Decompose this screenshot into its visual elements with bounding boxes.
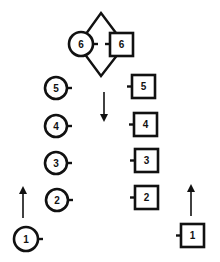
down-arrow-center-icon: [100, 92, 108, 122]
circle-node-4: 4: [45, 115, 72, 137]
circle-node-1: 1: [14, 227, 43, 251]
circle-label: 3: [53, 158, 59, 169]
circle-nodes: 54321: [14, 77, 73, 251]
up-arrow-left-icon: [19, 186, 27, 218]
pairing-diagram: 6 6 54321 54321: [0, 0, 220, 262]
arrow-head: [100, 114, 108, 122]
square-node-4: 4: [129, 113, 157, 136]
square-nodes: 54321: [127, 75, 204, 247]
square-label: 1: [190, 230, 196, 241]
circle-label: 1: [23, 234, 29, 245]
up-arrow-right-icon: [187, 184, 195, 216]
top-square-label: 6: [119, 39, 125, 50]
circle-label: 2: [54, 195, 60, 206]
circle-node-2: 2: [46, 189, 73, 211]
circle-label: 4: [53, 121, 59, 132]
square-label: 5: [141, 81, 147, 92]
top-circle-label: 6: [78, 39, 84, 50]
arrow-head: [19, 186, 27, 194]
square-label: 3: [144, 155, 150, 166]
square-node-5: 5: [127, 75, 155, 98]
arrow-head: [187, 184, 195, 192]
circle-node-3: 3: [45, 152, 72, 174]
square-node-1: 1: [176, 224, 204, 247]
square-label: 2: [144, 192, 150, 203]
square-node-2: 2: [130, 186, 158, 209]
top-square-node: 6: [110, 33, 133, 56]
circle-node-5: 5: [45, 77, 72, 99]
top-circle-node: 6: [69, 32, 93, 56]
circle-label: 5: [53, 83, 59, 94]
square-label: 4: [143, 119, 149, 130]
square-node-3: 3: [130, 149, 158, 172]
